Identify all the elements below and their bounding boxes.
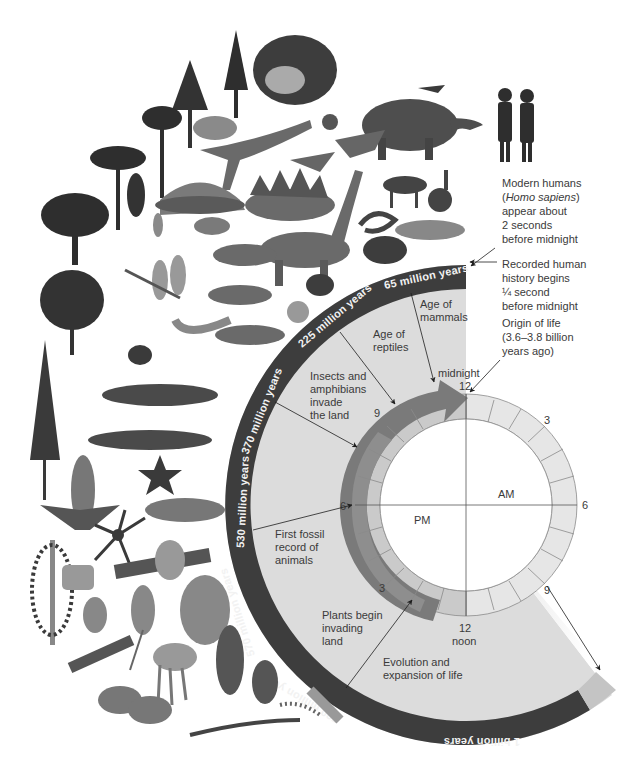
hour-9-left: 9 [374, 407, 380, 419]
hour-12-bottom: 12 [459, 622, 471, 634]
ammonite-icon [287, 301, 309, 323]
disc-fossil-icon [98, 686, 172, 724]
hour-6-left: 6 [340, 500, 346, 512]
crinoid-icon [32, 540, 72, 645]
am-label: AM [498, 488, 515, 500]
hour-3-left: 3 [379, 582, 385, 594]
horsetail-icon [30, 340, 60, 500]
amphibian-icon [208, 244, 285, 345]
centipede-icon [175, 320, 230, 330]
dimetrodon-icon [155, 183, 245, 216]
geologic-clock-diagram: 65 million years 225 million years 370 m… [0, 0, 631, 763]
annotation-recorded-history: Recorded human history begins ¼ second b… [502, 257, 586, 313]
starfish-icon [138, 455, 182, 495]
snake-icon [360, 214, 395, 232]
sea-lily-icon [130, 585, 155, 670]
rabbit-icon [428, 170, 452, 212]
species-name: Homo sapiens [506, 191, 576, 203]
turtle-icon [363, 236, 407, 264]
horse-icon [383, 176, 427, 208]
midnight-label: midnight [438, 367, 480, 379]
cockroach-icon [194, 217, 230, 235]
annotation-origin-of-life: Origin of life (3.6–3.8 billion years ag… [502, 316, 574, 358]
event-evolution-expansion: Evolution and expansion of life [383, 656, 463, 681]
pm-label: PM [414, 514, 431, 526]
mammoth-icon [362, 99, 483, 160]
annotation-modern-humans: Modern humans (Homo sapiens) appear abou… [502, 176, 582, 246]
whale-icon [395, 220, 465, 240]
magnolia-icon [253, 35, 337, 105]
event-age-of-reptiles: Age of reptiles [373, 328, 409, 353]
human-figures-icon [498, 88, 534, 162]
fish-icon [88, 384, 225, 522]
noon-label: noon [452, 635, 476, 647]
pterosaur-icon [290, 130, 385, 172]
eurypterid-icon [40, 455, 120, 530]
butterfly-icon [322, 114, 338, 130]
hour-3-right: 3 [544, 414, 550, 426]
cycad-tree-icon [40, 193, 109, 355]
bird-icon [418, 85, 445, 93]
jellyfish-icon [153, 643, 197, 705]
sponge-icon [62, 565, 107, 633]
caterpillar-worm-icon [70, 640, 132, 668]
stegosaurus-icon [245, 168, 335, 221]
rodent-icon [306, 274, 334, 296]
hour-6-right: 6 [582, 499, 588, 511]
ginkgo-icon [193, 116, 237, 140]
spider-icon [128, 345, 152, 365]
hour-12-top: 12 [459, 380, 471, 392]
band-label-1by: 1 billion years [444, 736, 520, 748]
silverfish-icon [153, 213, 163, 237]
dragonfly-icon [125, 255, 186, 300]
